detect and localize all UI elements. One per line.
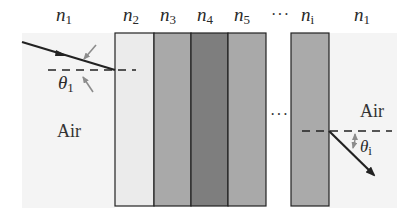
label-theta-i: θi bbox=[360, 137, 372, 159]
label-ni: ni bbox=[301, 4, 314, 28]
layer-n4 bbox=[191, 33, 228, 206]
ellipsis-middle: ··· bbox=[270, 106, 289, 124]
layer-n5 bbox=[228, 33, 266, 206]
label-air-right: Air bbox=[360, 101, 384, 122]
layer-ni bbox=[291, 33, 329, 206]
refraction-diagram: n1 n2 n3 n4 n5 ··· ni n1 θ1 θi Air Air ·… bbox=[0, 0, 401, 216]
label-n4: n4 bbox=[197, 4, 213, 28]
layer-n3 bbox=[154, 33, 191, 206]
ellipsis-top: ··· bbox=[271, 6, 290, 24]
label-n2: n2 bbox=[123, 4, 139, 28]
layer-n2 bbox=[115, 33, 154, 206]
label-air-left: Air bbox=[57, 121, 81, 142]
diagram-canvas bbox=[0, 0, 401, 216]
label-n1-left: n1 bbox=[56, 4, 72, 28]
label-n5: n5 bbox=[234, 4, 250, 28]
label-n3: n3 bbox=[160, 4, 176, 28]
label-n1-right: n1 bbox=[354, 4, 370, 28]
label-theta-1: θ1 bbox=[58, 72, 74, 96]
